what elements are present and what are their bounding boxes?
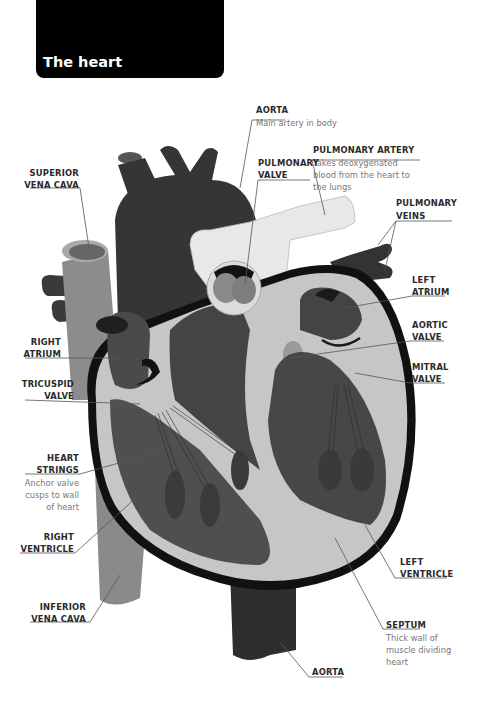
desc-pulmonary-artery-2: blood from the heart to	[313, 169, 410, 181]
desc-pulmonary-artery-1: Takes deoxygenated	[313, 157, 398, 169]
label-left-ventricle-2: VENTRICLE	[400, 568, 454, 580]
label-superior-vena-cava-2: VENA CAVA	[20, 179, 79, 191]
label-mitral-valve-2: VALVE	[412, 373, 442, 385]
label-left-atrium-2: ATRIUM	[412, 286, 449, 298]
label-pulmonary-veins-1: PULMONARY	[396, 197, 457, 209]
label-aortic-valve-2: VALVE	[412, 331, 442, 343]
label-mitral-valve-1: MITRAL	[412, 361, 449, 373]
desc-heart-strings-2: cusps to wall	[0, 489, 79, 501]
label-aorta-bottom: AORTA	[312, 666, 344, 678]
label-aortic-valve-1: AORTIC	[412, 319, 448, 331]
label-pulmonary-valve-1: PULMONARY	[258, 157, 319, 169]
label-right-ventricle-1: RIGHT	[0, 531, 74, 543]
label-pulmonary-veins-2: VEINS	[396, 210, 425, 222]
label-pulmonary-valve-2: VALVE	[258, 169, 288, 181]
desc-septum-3: heart	[386, 656, 408, 668]
label-heart-strings-2: STRINGS	[0, 464, 79, 476]
desc-pulmonary-artery-3: the lungs	[313, 181, 352, 193]
label-superior-vena-cava-1: SUPERIOR	[20, 167, 79, 179]
label-left-ventricle-1: LEFT	[400, 556, 423, 568]
label-right-ventricle-2: VENTRICLE	[0, 543, 74, 555]
desc-septum-1: Thick wall of	[386, 632, 438, 644]
desc-heart-strings-3: of heart	[0, 501, 79, 513]
pulmonary-valve-shape	[207, 261, 261, 315]
label-left-atrium-1: LEFT	[412, 274, 435, 286]
desc-heart-strings-1: Anchor valve	[0, 477, 79, 489]
label-tricuspid-valve-2: VALVE	[0, 390, 74, 402]
desc-septum-2: muscle dividing	[386, 644, 451, 656]
label-septum: SEPTUM	[386, 619, 426, 631]
label-pulmonary-artery: PULMONARY ARTERY	[313, 144, 414, 156]
label-heart-strings-1: HEART	[0, 452, 79, 464]
label-aorta-top: AORTA	[256, 104, 288, 116]
label-right-atrium-2: ATRIUM	[0, 348, 61, 360]
label-inferior-vena-cava-1: INFERIOR	[0, 601, 86, 613]
desc-aorta-top: Main artery in body	[256, 117, 337, 129]
label-tricuspid-valve-1: TRICUSPID	[0, 378, 74, 390]
label-right-atrium-1: RIGHT	[0, 336, 61, 348]
label-inferior-vena-cava-2: VENA CAVA	[0, 613, 86, 625]
